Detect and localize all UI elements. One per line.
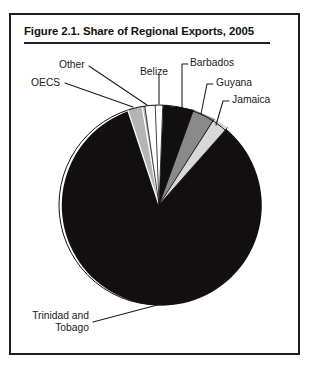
leader-line-barbados: [182, 64, 188, 108]
pie-label-belize: Belize: [140, 66, 168, 78]
leader-line-other: [89, 66, 147, 105]
trinidad-label-line1: Trinidad and: [32, 310, 89, 321]
trinidad-label-line2: Tobago: [55, 322, 89, 333]
leader-line-oecs: [65, 83, 133, 107]
leader-line-guyana: [201, 84, 213, 114]
pie-label-barbados: Barbados: [190, 57, 234, 69]
pie-label-trinidad-and-tobago: Trinidad and Tobago: [13, 310, 89, 333]
pie-slices: [59, 105, 262, 305]
pie-label-jamaica: Jamaica: [232, 94, 270, 106]
pie-label-oecs: OECS: [31, 77, 60, 89]
pie-chart: OECS Other Belize Barbados Guyana Jamaic…: [11, 15, 302, 357]
leader-line-trinidad: [93, 304, 161, 322]
figure-panel: Figure 2.1. Share of Regional Exports, 2…: [9, 13, 300, 355]
pie-label-guyana: Guyana: [216, 77, 252, 89]
pie-label-other: Other: [59, 59, 85, 71]
